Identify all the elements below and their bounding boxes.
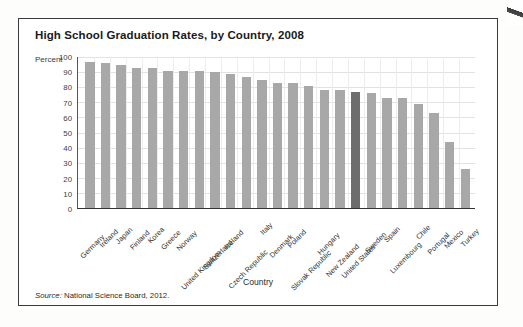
bar: [382, 98, 391, 208]
bar-series: [79, 57, 475, 208]
bar-slot: [285, 57, 301, 208]
x-axis-tick-labels: GermanyIrelandJapanFinlandKoreaGreeceNor…: [77, 211, 475, 279]
bar: [398, 98, 407, 208]
bar: [429, 113, 438, 208]
chart-frame: High School Graduation Rates, by Country…: [18, 18, 498, 306]
y-axis-tick-label: 50: [32, 129, 72, 138]
x-axis-tick-label: Italy: [258, 221, 274, 237]
bar: [461, 169, 470, 208]
bar-slot: [348, 57, 364, 208]
y-axis-tick-label: 10: [32, 189, 72, 198]
bar-slot: [410, 57, 426, 208]
scan-artifact: [507, 0, 523, 26]
bar: [414, 104, 423, 208]
y-axis-tick-label: 20: [32, 174, 72, 183]
bar: [304, 86, 313, 208]
source-note: Source: National Science Board, 2012.: [35, 291, 169, 300]
bar: [351, 92, 360, 208]
plot-area: 1009080706050403020100: [77, 57, 475, 209]
bar-slot: [223, 57, 239, 208]
y-axis-tick-label: 60: [32, 113, 72, 122]
bar: [335, 90, 344, 208]
bar-slot: [176, 57, 192, 208]
x-axis-tick-label: Chile: [414, 223, 432, 241]
bar-slot: [145, 57, 161, 208]
bar-slot: [379, 57, 395, 208]
x-axis-tick-label: Spain: [382, 224, 402, 244]
x-axis-tick-label: Luxembourg: [388, 240, 423, 275]
bar: [320, 90, 329, 208]
bar: [163, 71, 172, 208]
bar: [195, 71, 204, 208]
bar: [445, 142, 454, 208]
bar-slot: [191, 57, 207, 208]
bar-slot: [442, 57, 458, 208]
bar-slot: [301, 57, 317, 208]
bar-slot: [395, 57, 411, 208]
bar-slot: [207, 57, 223, 208]
y-axis-tick-label: 40: [32, 144, 72, 153]
x-axis-tick-label: Poland: [286, 227, 309, 250]
bar-slot: [426, 57, 442, 208]
bar: [132, 68, 141, 208]
chart-title: High School Graduation Rates, by Country…: [35, 29, 304, 41]
bar: [242, 77, 251, 208]
bar-slot: [254, 57, 270, 208]
bar-slot: [160, 57, 176, 208]
source-prefix: Source:: [35, 291, 62, 300]
bar-slot: [317, 57, 333, 208]
bar: [288, 83, 297, 208]
plot-canvas: [77, 57, 475, 209]
bar: [148, 68, 157, 208]
bar-slot: [270, 57, 286, 208]
y-axis-tick-label: 70: [32, 98, 72, 107]
bar-slot: [364, 57, 380, 208]
bar: [226, 74, 235, 208]
bar-slot: [457, 57, 473, 208]
bar: [85, 62, 94, 208]
bar-slot: [98, 57, 114, 208]
source-text: National Science Board, 2012.: [64, 291, 169, 300]
y-axis-tick-label: 90: [32, 68, 72, 77]
bar: [101, 63, 110, 208]
bar: [273, 83, 282, 208]
y-axis-tick-label: 30: [32, 159, 72, 168]
bar: [116, 65, 125, 208]
x-axis-title: Country: [19, 277, 497, 287]
page-canvas: High School Graduation Rates, by Country…: [0, 0, 523, 327]
y-axis-tick-label: 80: [32, 83, 72, 92]
bar: [179, 71, 188, 208]
bar: [367, 93, 376, 208]
bar-slot: [113, 57, 129, 208]
bar-slot: [332, 57, 348, 208]
x-axis-tick-label: Iceland: [222, 228, 245, 251]
bar: [210, 72, 219, 208]
bar-slot: [238, 57, 254, 208]
y-axis-tick-label: 0: [32, 205, 72, 214]
x-axis-tick-label: Sweden: [363, 230, 388, 255]
bar: [257, 80, 266, 208]
y-axis-tick-label: 100: [32, 53, 72, 62]
bar-slot: [129, 57, 145, 208]
bar-slot: [82, 57, 98, 208]
